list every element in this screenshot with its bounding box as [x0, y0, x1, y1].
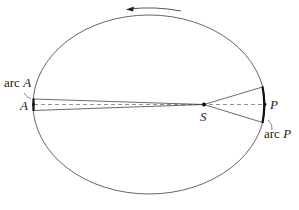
- point-p-marker: [264, 103, 267, 106]
- orbit-diagram: arc A A S P arc P: [0, 0, 299, 210]
- point-a-label: A: [19, 98, 28, 113]
- point-s-label: S: [200, 109, 207, 124]
- arc-p-label: arc P: [264, 126, 291, 141]
- arc-a-label: arc A: [4, 75, 31, 90]
- point-a-marker: [32, 103, 35, 106]
- direction-arrow-icon: [126, 7, 181, 12]
- point-s-marker: [202, 103, 206, 107]
- point-p-label: P: [269, 97, 278, 112]
